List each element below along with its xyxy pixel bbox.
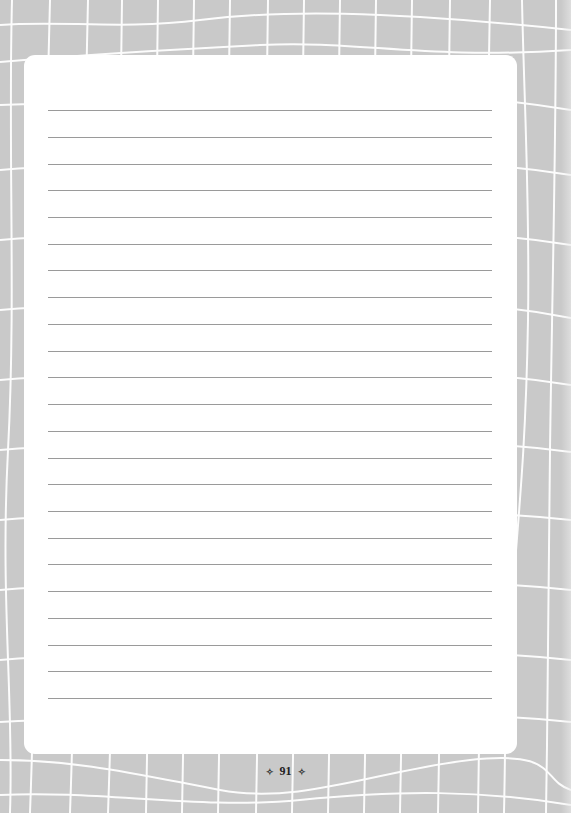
- writing-line: [48, 431, 492, 432]
- writing-line: [48, 217, 492, 218]
- writing-line: [48, 137, 492, 138]
- writing-line: [48, 645, 492, 646]
- page-number: 91: [280, 764, 292, 779]
- writing-line: [48, 351, 492, 352]
- writing-line: [48, 110, 492, 111]
- writing-line: [48, 270, 492, 271]
- writing-line: [48, 591, 492, 592]
- writing-line: [48, 404, 492, 405]
- writing-line: [48, 698, 492, 699]
- writing-line: [48, 190, 492, 191]
- page-edge: [561, 0, 571, 813]
- writing-line: [48, 377, 492, 378]
- writing-line: [48, 297, 492, 298]
- writing-line: [48, 458, 492, 459]
- writing-line: [48, 164, 492, 165]
- writing-line: [48, 511, 492, 512]
- writing-line: [48, 538, 492, 539]
- page-footer: ✧ 91 ✧: [0, 764, 571, 779]
- writing-line: [48, 671, 492, 672]
- ornament-left-icon: ✧: [266, 767, 274, 777]
- writing-panel: [24, 55, 517, 754]
- writing-line: [48, 324, 492, 325]
- writing-line: [48, 564, 492, 565]
- writing-line: [48, 618, 492, 619]
- writing-line: [48, 244, 492, 245]
- ornament-right-icon: ✧: [298, 767, 306, 777]
- writing-line: [48, 484, 492, 485]
